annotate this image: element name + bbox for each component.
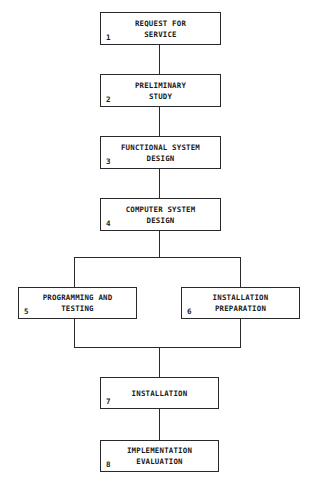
step-box-2: PRELIMINARY STUDY 2 xyxy=(100,74,221,107)
connector-2-3 xyxy=(159,106,160,136)
connector-5-join xyxy=(74,318,75,347)
step-label: PROGRAMMING AND TESTING xyxy=(19,292,136,314)
step-number: 7 xyxy=(106,397,111,406)
step-number: 8 xyxy=(106,460,111,469)
step-number: 4 xyxy=(106,219,111,228)
connector-1-2 xyxy=(159,44,160,74)
step-number: 6 xyxy=(187,307,192,316)
step-number: 5 xyxy=(24,307,29,316)
step-label: FUNCTIONAL SYSTEM DESIGN xyxy=(101,142,220,164)
step-label: INSTALLATION xyxy=(101,388,218,399)
join-bar xyxy=(74,347,241,348)
step-label: PRELIMINARY STUDY xyxy=(101,80,220,102)
step-box-6: INSTALLATION PREPARATION 6 xyxy=(181,287,300,319)
step-box-3: FUNCTIONAL SYSTEM DESIGN 3 xyxy=(100,136,221,169)
step-number: 2 xyxy=(106,95,111,104)
connector-split-6 xyxy=(240,257,241,287)
connector-join-7 xyxy=(159,347,160,377)
step-label: COMPUTER SYSTEM DESIGN xyxy=(101,204,220,226)
step-label: IMPLEMENTATION EVALUATION xyxy=(101,445,218,467)
step-box-7: INSTALLATION 7 xyxy=(100,377,219,409)
step-box-8: IMPLEMENTATION EVALUATION 8 xyxy=(100,440,219,472)
connector-4-split xyxy=(159,230,160,257)
connector-3-4 xyxy=(159,168,160,198)
connector-7-8 xyxy=(159,408,160,440)
step-box-4: COMPUTER SYSTEM DESIGN 4 xyxy=(100,198,221,231)
step-box-1: REQUEST FOR SERVICE 1 xyxy=(100,12,221,45)
step-label: REQUEST FOR SERVICE xyxy=(101,18,220,40)
step-number: 1 xyxy=(106,33,111,42)
step-number: 3 xyxy=(106,157,111,166)
split-bar xyxy=(74,257,241,258)
connector-split-5 xyxy=(74,257,75,287)
connector-6-join xyxy=(240,318,241,347)
step-label: INSTALLATION PREPARATION xyxy=(182,292,299,314)
step-box-5: PROGRAMMING AND TESTING 5 xyxy=(18,287,137,319)
